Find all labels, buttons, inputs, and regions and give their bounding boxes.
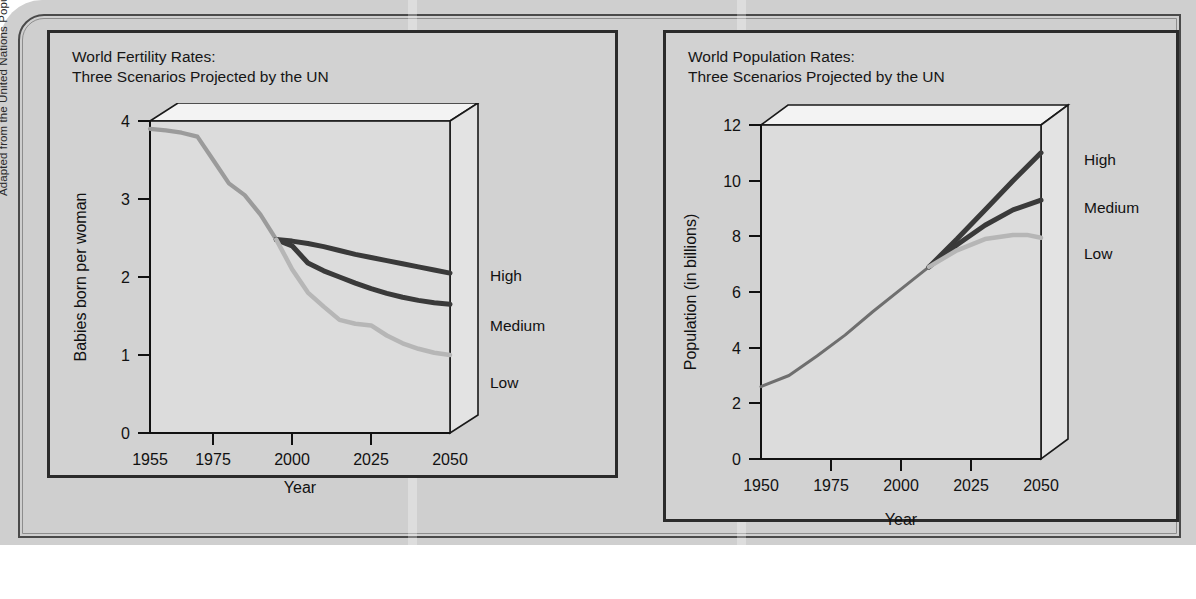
page-frame: World Fertility Rates: Three Scenarios P… <box>0 0 1196 545</box>
population-plot-area: 0 2 4 6 8 10 12 Population (in billions)… <box>666 103 1176 519</box>
fertility-label-low: Low <box>490 374 519 391</box>
fertility-x-ticks <box>213 433 371 445</box>
chart-panel-fertility: World Fertility Rates: Three Scenarios P… <box>47 30 618 478</box>
fertility-xtick-2000: 2000 <box>274 451 310 468</box>
fertility-plot-area: 0 1 2 3 4 Babies born per woman 1955 197… <box>50 103 615 475</box>
population-xtick-2050: 2050 <box>1023 477 1059 494</box>
population-x-axis-label: Year <box>885 511 918 528</box>
population-ytick-8: 8 <box>732 228 741 245</box>
fertility-label-medium: Medium <box>490 317 545 334</box>
population-ytick-0: 0 <box>732 451 741 468</box>
population-label-high: High <box>1084 151 1116 168</box>
fertility-xtick-1955: 1955 <box>132 451 168 468</box>
population-label-low: Low <box>1084 245 1113 262</box>
fertility-ytick-3: 3 <box>121 191 130 208</box>
source-credit: Adapted from the United Nations Populati… <box>0 0 9 196</box>
population-ytick-2: 2 <box>732 395 741 412</box>
fertility-chart-title: World Fertility Rates: Three Scenarios P… <box>72 47 329 87</box>
fertility-xtick-2025: 2025 <box>353 451 389 468</box>
population-xtick-2025: 2025 <box>953 477 989 494</box>
population-box-top <box>761 105 1068 125</box>
fertility-x-axis-label: Year <box>284 479 317 496</box>
fertility-y-ticks <box>138 121 150 433</box>
population-xtick-1975: 1975 <box>813 477 849 494</box>
fertility-xtick-2050: 2050 <box>432 451 468 468</box>
population-y-axis-label: Population (in billions) <box>682 214 699 371</box>
population-ytick-10: 10 <box>723 173 741 190</box>
population-label-medium: Medium <box>1084 199 1139 216</box>
fertility-box-top <box>150 103 478 121</box>
population-x-ticks <box>831 459 971 471</box>
fertility-ytick-2: 2 <box>121 269 130 286</box>
population-y-ticks <box>749 125 761 459</box>
population-chart-title: World Population Rates: Three Scenarios … <box>688 47 945 87</box>
population-ytick-6: 6 <box>732 284 741 301</box>
population-ytick-4: 4 <box>732 340 741 357</box>
population-ytick-12: 12 <box>723 117 741 134</box>
population-xtick-1950: 1950 <box>743 477 779 494</box>
fertility-ytick-0: 0 <box>121 425 130 442</box>
chart-panel-population: World Population Rates: Three Scenarios … <box>663 30 1179 522</box>
fertility-ytick-4: 4 <box>121 113 130 130</box>
population-box-side <box>1041 105 1068 459</box>
population-xtick-2000: 2000 <box>883 477 919 494</box>
population-box-front <box>761 125 1041 459</box>
fertility-label-high: High <box>490 267 522 284</box>
fertility-y-axis-label: Babies born per woman <box>72 193 89 362</box>
fertility-ytick-1: 1 <box>121 347 130 364</box>
fertility-box-side <box>450 103 478 433</box>
fertility-xtick-1975: 1975 <box>195 451 231 468</box>
